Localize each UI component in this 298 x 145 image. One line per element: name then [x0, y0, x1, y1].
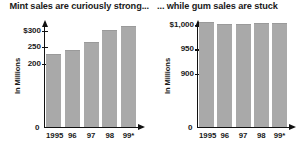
x-axis-line-mint: [44, 127, 140, 128]
y-axis-label-gum: In Millions: [163, 58, 172, 94]
chart-title-mint: Mint sales are curiously strong...: [0, 1, 153, 11]
bar-98-gum: [254, 23, 269, 127]
y-tick-label-300-mint: $300: [23, 27, 41, 35]
bar-1995-gum: [199, 22, 214, 126]
plot-area-mint: $300 250 200 0: [44, 18, 140, 128]
y-tick-label-250-mint: 250: [28, 43, 41, 51]
dual-bar-chart-figure: Mint sales are curiously strong... In Mi…: [0, 0, 298, 145]
y-tick-label-900-gum: 900: [181, 70, 194, 78]
y-tick-label-zero-mint: 0: [35, 124, 39, 132]
bar-slot-98-mint: [102, 22, 117, 127]
bar-96-mint: [65, 50, 80, 127]
x-label-1995-gum: 1995: [199, 132, 214, 140]
chart-panel-gum-sales: ... while gum sales are stuck In Million…: [149, 0, 298, 145]
x-label-98-gum: 98: [254, 132, 269, 140]
x-label-99-gum: 99*: [272, 132, 287, 140]
y-axis-label-mint: In Millions: [13, 58, 22, 94]
bar-slot-99-mint: [121, 22, 136, 127]
x-label-98-mint: 98: [102, 132, 117, 140]
bar-group-mint: [46, 22, 136, 127]
x-axis-arrow-icon-mint: [138, 124, 145, 130]
y-tick-label-200-mint: 200: [28, 60, 41, 68]
bar-slot-97-gum: [236, 22, 251, 127]
bar-1995-mint: [46, 54, 61, 126]
x-label-97-gum: 97: [236, 132, 251, 140]
bar-slot-98-gum: [254, 22, 269, 127]
bar-slot-99-gum: [272, 22, 287, 127]
bar-slot-1995-mint: [46, 22, 61, 127]
bar-slot-96-gum: [217, 22, 232, 127]
x-axis-line-gum: [197, 127, 291, 128]
chart-panel-mint-sales: Mint sales are curiously strong... In Mi…: [0, 0, 149, 145]
chart-title-gum: ... while gum sales are stuck: [149, 1, 298, 11]
x-axis-arrow-icon-gum: [289, 124, 296, 130]
y-tick-label-1000-gum: $1,000: [170, 21, 194, 29]
bar-99-gum: [272, 23, 287, 127]
x-label-96-mint: 96: [65, 132, 80, 140]
bar-slot-96-mint: [65, 22, 80, 127]
y-tick-label-zero-gum: 0: [188, 124, 192, 132]
x-label-96-gum: 96: [217, 132, 232, 140]
bar-slot-97-mint: [84, 22, 99, 127]
x-label-1995-mint: 1995: [46, 132, 61, 140]
bar-99-mint: [121, 26, 136, 126]
bar-97-gum: [236, 24, 251, 127]
bar-96-gum: [217, 24, 232, 127]
x-axis-labels-mint: 1995 96 97 98 99*: [46, 132, 136, 140]
x-label-99-mint: 99*: [121, 132, 136, 140]
bar-97-mint: [84, 42, 99, 127]
bar-98-mint: [102, 30, 117, 127]
x-label-97-mint: 97: [84, 132, 99, 140]
x-axis-labels-gum: 1995 96 97 98 99*: [199, 132, 287, 140]
y-tick-label-950-gum: 950: [181, 45, 194, 53]
bar-slot-1995-gum: [199, 22, 214, 127]
plot-area-gum: $1,000 950 900 0: [197, 18, 291, 128]
bar-group-gum: [199, 22, 287, 127]
